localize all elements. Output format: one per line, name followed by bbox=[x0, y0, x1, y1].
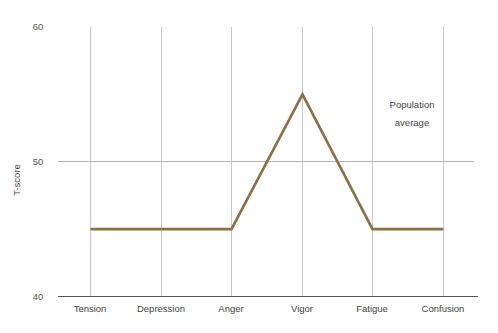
annotation-line-1: Population bbox=[390, 99, 435, 110]
y-tick-label-40: 40 bbox=[33, 291, 44, 302]
x-tick-label-depression: Depression bbox=[137, 303, 185, 314]
x-tick-label-tension: Tension bbox=[74, 303, 107, 314]
line-chart: 60 50 40 T-score Tension Depression Ange… bbox=[0, 0, 498, 333]
y-tick-label-60: 60 bbox=[33, 21, 44, 32]
chart-background bbox=[0, 0, 498, 333]
x-tick-label-confusion: Confusion bbox=[422, 303, 465, 314]
x-tick-label-vigor: Vigor bbox=[291, 303, 313, 314]
y-tick-label-50: 50 bbox=[33, 156, 44, 167]
x-tick-label-anger: Anger bbox=[218, 303, 243, 314]
annotation-line-2: average bbox=[395, 117, 429, 128]
x-tick-label-fatigue: Fatigue bbox=[356, 303, 388, 314]
chart-container: 60 50 40 T-score Tension Depression Ange… bbox=[0, 0, 498, 333]
y-axis-title: T-score bbox=[11, 164, 22, 196]
